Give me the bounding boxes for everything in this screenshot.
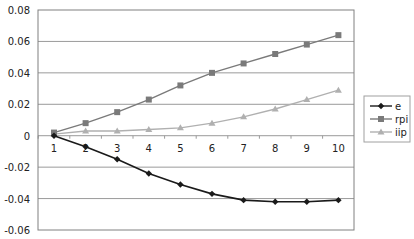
x-tick-label: 6 [209,143,215,154]
y-tick-label: 0.04 [8,68,30,79]
diamond-marker [146,170,152,176]
triangle-marker [335,87,342,93]
y-tick-label: -0.04 [4,194,30,205]
square-marker [378,116,384,122]
y-tick-label: -0.06 [4,225,30,236]
legend-label: rpi [395,114,408,125]
diamond-marker [240,197,246,203]
line-chart: 0.080.060.040.020-0.02-0.04-0.06 1234567… [0,0,414,239]
square-marker [83,120,89,126]
diamond-marker [114,156,120,162]
legend-label: iip [395,127,407,138]
square-marker [146,97,152,103]
diamond-marker [177,181,183,187]
diamond-marker [209,191,215,197]
series-line [54,136,338,202]
square-marker [177,82,183,88]
x-tick-label: 5 [177,143,183,154]
series-line [54,35,338,132]
y-tick-label: 0.02 [8,99,30,110]
x-tick-label: 4 [146,143,152,154]
y-tick-label: -0.02 [4,162,30,173]
x-tick-label: 10 [332,143,345,154]
series-iip [51,87,342,137]
square-marker [114,109,120,115]
gridlines [38,41,354,198]
diamond-marker [272,199,278,205]
y-axis: 0.080.060.040.020-0.02-0.04-0.06 [4,5,30,236]
legend-label: e [395,101,401,112]
square-marker [209,70,215,76]
x-tick-label: 8 [272,143,278,154]
diamond-marker [335,197,341,203]
square-marker [304,42,310,48]
x-tick-label: 9 [304,143,310,154]
square-marker [272,51,278,57]
series-line [54,90,338,134]
x-tick-label: 3 [114,143,120,154]
data-series [51,32,342,205]
y-tick-label: 0 [24,131,30,142]
x-tick-label: 7 [240,143,246,154]
legend: erpiiip [364,96,410,142]
series-e [51,133,342,205]
y-tick-label: 0.08 [8,5,30,16]
x-tick-label: 1 [51,143,57,154]
series-rpi [51,32,341,135]
square-marker [241,60,247,66]
square-marker [335,32,341,38]
y-tick-label: 0.06 [8,36,30,47]
diamond-marker [304,199,310,205]
